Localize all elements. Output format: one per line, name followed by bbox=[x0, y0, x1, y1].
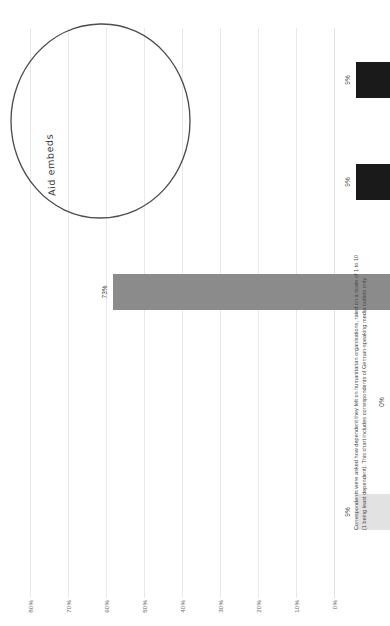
chart-caption: Correspondents were asked how dependent … bbox=[352, 255, 368, 530]
bar-rect-7-8[interactable] bbox=[356, 164, 390, 200]
ytick-label-60: 60% bbox=[103, 600, 110, 626]
plot-area: 80% 70% 60% 50% 40% 30% 20% 10% 0% 9% 1 … bbox=[0, 0, 390, 626]
ytick-label-40: 40% bbox=[179, 600, 186, 626]
chart-canvas: 80% 70% 60% 50% 40% 30% 20% 10% 0% 9% 1 … bbox=[0, 0, 390, 626]
bar-group-7-8[interactable]: 9% 7-8 bbox=[56, 164, 390, 200]
bar-group-4-6[interactable]: 73% 4-6 bbox=[56, 274, 390, 310]
gridline-80 bbox=[30, 28, 31, 598]
bar-group-1[interactable]: 9% 1 bbox=[56, 494, 390, 530]
ytick-label-30: 30% bbox=[217, 600, 224, 626]
ytick-label-0: 0% bbox=[331, 600, 338, 626]
bar-value-9-10: 9% bbox=[344, 75, 351, 84]
rotated-chart-stage: 80% 70% 60% 50% 40% 30% 20% 10% 0% 9% 1 … bbox=[0, 0, 390, 626]
bar-group-9-10[interactable]: 9% 9-10 bbox=[56, 62, 390, 98]
bar-value-2-3: 0% bbox=[378, 397, 385, 406]
bar-rect-4-6[interactable] bbox=[113, 274, 390, 310]
bar-value-4-6: 73% bbox=[101, 286, 108, 299]
caption-line-1: Correspondents were asked how dependent … bbox=[352, 255, 360, 530]
ytick-label-80: 80% bbox=[27, 600, 34, 626]
bar-value-1: 9% bbox=[344, 507, 351, 516]
ytick-label-50: 50% bbox=[141, 600, 148, 626]
ytick-label-10: 10% bbox=[293, 600, 300, 626]
bar-group-2-3[interactable]: 0% 2-3 bbox=[56, 384, 390, 420]
bar-rect-9-10[interactable] bbox=[356, 62, 390, 98]
caption-line-2: (1 being least dependent). This chart in… bbox=[360, 255, 368, 530]
aid-embeds-annotation: Aid embeds bbox=[43, 134, 57, 197]
ytick-label-70: 70% bbox=[65, 600, 72, 626]
ytick-label-20: 20% bbox=[255, 600, 262, 626]
bar-value-7-8: 9% bbox=[344, 177, 351, 186]
